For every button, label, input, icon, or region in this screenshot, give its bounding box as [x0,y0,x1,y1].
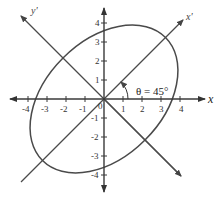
y-tick-label: -4 [91,170,99,180]
y-tick-label: 4 [95,18,100,28]
angle-arc [121,82,128,99]
rotated-ellipse-diagram: -4 -3 -2 -1 1 2 3 4 4 3 2 1 -1 -2 -3 -4 … [0,0,220,203]
y-tick-label: 3 [95,37,100,47]
x-tick-label: -4 [22,104,30,114]
x-tick-label: 1 [121,104,126,114]
theta-label: θ = 45° [136,85,168,97]
x-tick-label: 4 [179,104,184,114]
x-axis-label: x [207,92,214,106]
y-tick-label: -2 [91,132,99,142]
y-tick-label: 2 [95,56,100,66]
origin-label: 0 [98,101,103,111]
x-tick-label: 2 [140,104,145,114]
x-tick-label: -1 [79,104,87,114]
y-tick-label: 1 [95,75,100,85]
x-tick-label: 3 [159,104,164,114]
x-tick-label: -3 [41,104,49,114]
y-tick-label: -3 [91,151,99,161]
y-prime-label: y' [30,5,38,16]
x-prime-label: x' [185,11,193,22]
y-tick-label: -1 [91,113,99,123]
x-tick-label: -2 [60,104,68,114]
